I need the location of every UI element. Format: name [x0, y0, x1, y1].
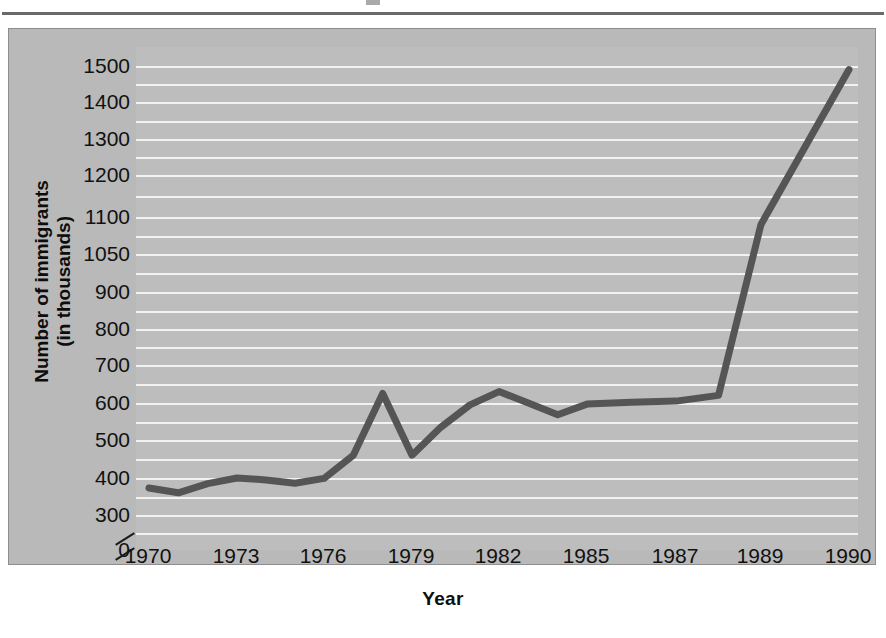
cropped-title-remnant [366, 0, 380, 5]
y-axis-title-line-1: Number of immigrants [31, 141, 53, 421]
x-axis-tick-1970: 1970 [125, 545, 172, 566]
data-series-line [136, 47, 858, 550]
y-axis-tick-1300: 1300 [64, 128, 130, 149]
x-axis-tick-1982: 1982 [475, 545, 522, 566]
chart-figure: Number of immigrants (in thousands) 1500… [8, 28, 876, 565]
x-axis-tick-1976: 1976 [300, 545, 347, 566]
x-axis-title: Year [0, 588, 886, 610]
x-axis-tick-1987: 1987 [652, 545, 699, 566]
header-divider-rule [2, 12, 884, 15]
y-axis-tick-labels: 1500140013001200110010509008007006005004… [54, 47, 130, 550]
y-axis-tick-300: 300 [64, 504, 130, 525]
y-axis-tick-800: 800 [64, 318, 130, 339]
plot-area [136, 47, 858, 550]
x-axis-tick-1979: 1979 [388, 545, 435, 566]
y-axis-tick-1500: 1500 [64, 55, 130, 76]
y-axis-tick-400: 400 [64, 467, 130, 488]
y-axis-tick-900: 900 [64, 281, 130, 302]
x-axis-tick-labels: 197019731976197919821985198719891990 [0, 545, 886, 573]
immigrants-line-path [149, 70, 849, 493]
y-axis-tick-600: 600 [64, 392, 130, 413]
x-axis-tick-1989: 1989 [737, 545, 784, 566]
y-axis-tick-1100: 1100 [64, 206, 130, 227]
y-axis-tick-700: 700 [64, 354, 130, 375]
x-axis-tick-1990: 1990 [825, 545, 872, 566]
y-axis-tick-1200: 1200 [64, 164, 130, 185]
y-axis-tick-1050: 1050 [64, 243, 130, 264]
y-axis-tick-500: 500 [64, 429, 130, 450]
x-axis-tick-1973: 1973 [213, 545, 260, 566]
y-axis-tick-1400: 1400 [64, 91, 130, 112]
x-axis-tick-1985: 1985 [563, 545, 610, 566]
chart-page: Number of immigrants (in thousands) 1500… [0, 0, 886, 638]
